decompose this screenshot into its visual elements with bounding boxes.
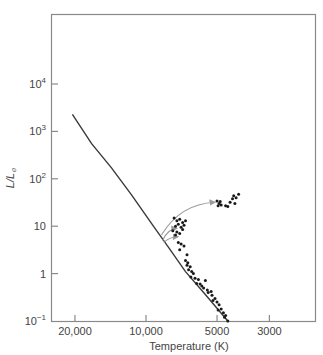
- star-point: [232, 194, 235, 197]
- x-axis-title: Temperature (K): [149, 340, 228, 352]
- star-point: [216, 200, 219, 203]
- star-point: [219, 200, 222, 203]
- star-point: [171, 229, 174, 232]
- star-point: [211, 294, 214, 297]
- star-point: [189, 265, 192, 268]
- star-point: [217, 309, 220, 312]
- star-point: [194, 277, 197, 280]
- evolution-track-arrow: [164, 237, 178, 243]
- main-sequence-line: [72, 114, 227, 321]
- star-point: [186, 264, 189, 267]
- y-axis-title-l: L/L: [4, 173, 16, 188]
- star-point: [177, 241, 180, 244]
- star-point: [186, 253, 189, 256]
- star-point: [235, 196, 238, 199]
- y-tick-label: 102: [29, 171, 46, 185]
- y-tick-label: 103: [29, 123, 46, 137]
- star-point: [192, 272, 195, 275]
- star-point: [181, 228, 184, 231]
- plot-frame: [52, 15, 316, 322]
- star-point: [183, 245, 186, 248]
- x-tick-label: 5000: [205, 325, 229, 337]
- star-point: [229, 201, 232, 204]
- star-point: [184, 259, 187, 262]
- y-axis-ticks: 10−1110102103104: [25, 76, 58, 327]
- star-point: [212, 299, 215, 302]
- x-tick-label: 3000: [257, 325, 281, 337]
- series-layer: [72, 114, 240, 322]
- star-point: [218, 303, 221, 306]
- star-point: [226, 320, 229, 323]
- star-point: [207, 291, 210, 294]
- star-point: [210, 290, 213, 293]
- svg-text:L/L⊙: L/L⊙: [4, 167, 17, 188]
- star-point: [222, 311, 225, 314]
- star-point: [220, 204, 223, 207]
- star-point: [178, 232, 181, 235]
- sun-symbol: ⊙: [11, 167, 17, 173]
- evolution-track-arrow: [161, 202, 215, 235]
- star-point: [178, 248, 181, 251]
- y-tick-label: 1: [40, 268, 46, 280]
- x-tick-label: 10,000: [129, 325, 163, 337]
- star-point: [217, 204, 220, 207]
- star-point: [180, 243, 183, 246]
- star-point: [174, 234, 177, 237]
- star-point: [226, 205, 229, 208]
- star-point: [174, 225, 177, 228]
- star-point: [177, 223, 180, 226]
- star-point: [233, 202, 236, 205]
- star-point: [178, 218, 181, 221]
- star-point: [189, 275, 192, 278]
- star-point: [216, 301, 219, 304]
- star-point: [223, 316, 226, 319]
- star-point: [175, 219, 178, 222]
- star-point: [231, 197, 234, 200]
- star-point: [220, 307, 223, 310]
- star-point: [186, 261, 189, 264]
- star-point: [204, 279, 207, 282]
- star-point: [187, 268, 190, 271]
- star-point: [197, 278, 200, 281]
- star-point: [195, 282, 198, 285]
- hr-diagram-chart: 10−1110102103104 20,00010,00050003000 Te…: [0, 0, 323, 355]
- y-tick-label: 10−1: [25, 313, 47, 327]
- y-tick-label: 104: [29, 76, 46, 90]
- star-point: [237, 193, 240, 196]
- y-tick-label: 10: [34, 220, 46, 232]
- star-point: [202, 286, 205, 289]
- star-point: [175, 231, 178, 234]
- x-tick-label: 20,000: [58, 325, 92, 337]
- x-axis-ticks: 20,00010,00050003000: [58, 315, 282, 337]
- y-axis-title: L/L⊙: [4, 167, 17, 188]
- star-point: [173, 216, 176, 219]
- star-point: [183, 224, 186, 227]
- star-point: [181, 221, 184, 224]
- star-point: [184, 219, 187, 222]
